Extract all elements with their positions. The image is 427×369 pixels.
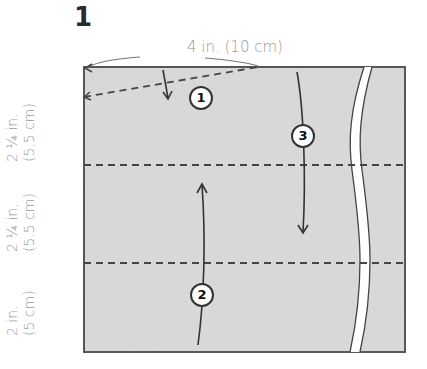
fold-marker-2: 2 [190, 283, 214, 307]
fold-diagram [0, 0, 427, 369]
fold-marker-1: 1 [189, 86, 213, 110]
dimension-arc-right [205, 58, 258, 66]
fold-marker-3: 3 [291, 124, 315, 148]
